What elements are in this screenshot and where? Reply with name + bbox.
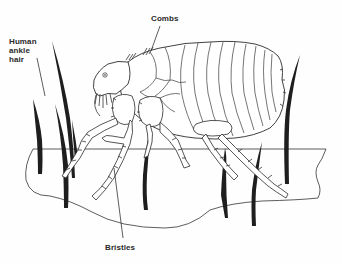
label-hair-line-3: hair [9, 55, 49, 64]
label-bristles: Bristles [105, 243, 135, 252]
midleg [144, 124, 153, 158]
label-human-ankle-hair: Human ankle hair [9, 37, 49, 64]
hindleg-front [202, 134, 238, 180]
flea-diagram: Combs Human ankle hair Bristles [0, 0, 342, 264]
mouthparts [95, 93, 112, 116]
combs-leader [151, 26, 160, 51]
label-hair-line-1: Human [9, 37, 49, 46]
midleg-coxa [138, 96, 163, 126]
hindleg-coxa [193, 120, 232, 136]
label-combs: Combs [151, 14, 179, 23]
label-hair-line-2: ankle [9, 46, 49, 55]
bristles-leader [114, 168, 123, 238]
diagram-drawing [0, 0, 342, 264]
